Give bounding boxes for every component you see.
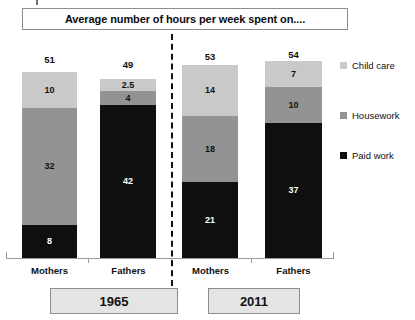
bar-total-label: 51 [22,55,77,65]
year-label: 1965 [100,294,129,309]
bar-segment-paid-work[interactable]: 8 [22,225,77,258]
bar-total-label: 53 [182,52,238,62]
bar-mothers-2011[interactable]: 14 18 21 [182,65,238,258]
plot-area: 51 10 32 8 49 2.5 4 42 53 [0,0,415,320]
category-label-mothers-1965: Mothers [18,266,81,276]
chart-container: Average number of hours per week spent o… [0,0,415,320]
bar-segment-housework[interactable]: 4 [100,91,156,105]
x-axis-end-cap [333,252,334,259]
legend-label: Housework [352,111,400,121]
year-label: 2011 [240,294,268,309]
bar-total-label: 49 [100,60,156,70]
bar-segment-housework[interactable]: 32 [22,108,77,225]
year-box-1965: 1965 [50,288,178,314]
bar-total-label: 54 [265,50,322,60]
year-box-2011: 2011 [208,288,300,314]
bar-segment-paid-work[interactable]: 37 [265,123,322,258]
bar-mothers-1965[interactable]: 10 32 8 [22,72,77,258]
legend-swatch-icon [340,62,347,69]
category-label-fathers-1965: Fathers [97,266,160,276]
segment-value-label: 37 [288,186,298,195]
bar-segment-housework[interactable]: 18 [182,116,238,182]
x-axis-tick [251,258,252,263]
legend-item-paid-work[interactable]: Paid work [340,151,394,161]
x-axis-line [6,258,334,259]
segment-value-label: 8 [47,237,52,246]
category-label-fathers-2011: Fathers [262,266,325,276]
bar-fathers-1965[interactable]: 2.5 4 42 [100,79,156,258]
x-axis-start-cap [6,252,7,259]
bar-segment-child-care[interactable]: 2.5 [100,79,156,91]
x-axis-tick [88,258,89,263]
bar-segment-child-care[interactable]: 7 [265,61,322,87]
segment-value-label: 14 [205,86,215,95]
segment-value-label: 18 [205,145,215,154]
segment-value-label: 32 [44,162,54,171]
segment-value-label: 2.5 [122,81,135,90]
bar-fathers-2011[interactable]: 7 10 37 [265,61,322,258]
legend-item-child-care[interactable]: Child care [340,61,395,71]
legend-swatch-icon [340,112,347,119]
legend-swatch-icon [340,152,347,159]
legend-label: Paid work [352,151,394,161]
bar-segment-child-care[interactable]: 10 [22,72,77,108]
category-label-mothers-2011: Mothers [179,266,242,276]
bar-segment-housework[interactable]: 10 [265,87,322,123]
segment-value-label: 10 [44,86,54,95]
segment-value-label: 4 [125,94,130,103]
bar-segment-paid-work[interactable]: 42 [100,105,156,258]
segment-value-label: 21 [205,216,215,225]
year-group-divider [171,34,173,286]
bar-segment-child-care[interactable]: 14 [182,65,238,116]
segment-value-label: 42 [123,177,133,186]
segment-value-label: 7 [291,70,296,79]
bar-segment-paid-work[interactable]: 21 [182,182,238,258]
legend-item-housework[interactable]: Housework [340,111,400,121]
legend-label: Child care [352,61,395,71]
segment-value-label: 10 [288,101,298,110]
